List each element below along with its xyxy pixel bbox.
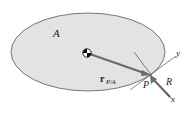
centroid-icon: [83, 49, 91, 57]
point-p-label: P: [142, 79, 149, 90]
position-vector-subscript: P/A: [105, 78, 116, 85]
diagram-canvas: A y x r P/A P R: [0, 0, 192, 121]
y-axis-label: y: [175, 48, 180, 58]
x-axis-label: x: [170, 94, 175, 104]
position-vector-label: r: [100, 73, 105, 84]
region-label: A: [52, 27, 60, 39]
force-r-label: R: [165, 76, 172, 87]
